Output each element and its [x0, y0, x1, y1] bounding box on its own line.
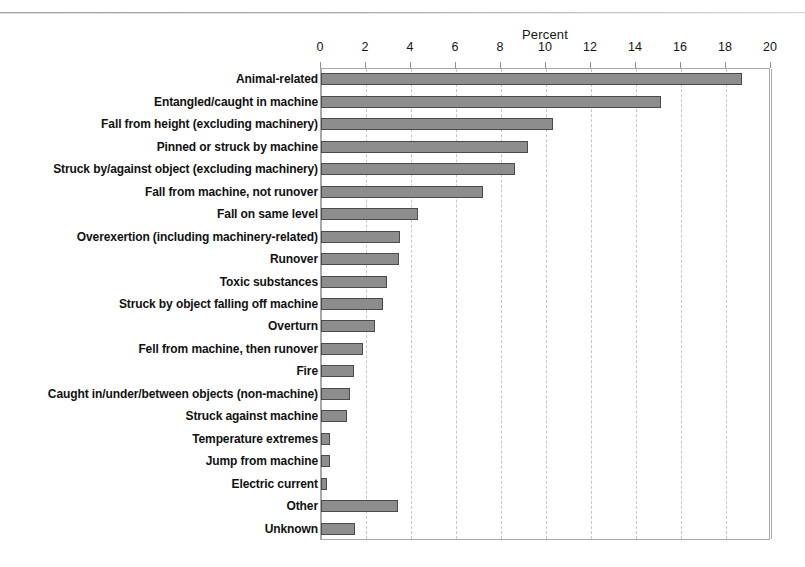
x-tick-label-20: 20 — [750, 40, 790, 54]
x-tick-label-14: 14 — [615, 40, 655, 54]
bar — [321, 186, 483, 198]
x-tick-label-12: 12 — [570, 40, 610, 54]
category-label: Temperature extremes — [192, 432, 318, 446]
category-label: Jump from machine — [206, 454, 318, 468]
bar-row: Fell from machine, then runover — [0, 338, 805, 360]
category-label: Runover — [270, 252, 318, 266]
bar — [321, 141, 528, 153]
bar-row: Unknown — [0, 518, 805, 540]
bar-row: Other — [0, 495, 805, 517]
x-tick-label-10: 10 — [525, 40, 565, 54]
bar-row: Fall from machine, not runover — [0, 180, 805, 202]
bar — [321, 96, 661, 108]
bar — [321, 320, 375, 332]
bar-row: Fire — [0, 360, 805, 382]
bar — [321, 276, 387, 288]
x-tick-label-8: 8 — [480, 40, 520, 54]
bar-row: Overexertion (including machinery-relate… — [0, 225, 805, 247]
category-label: Struck by/against object (excluding mach… — [53, 162, 318, 176]
bar-row: Runover — [0, 248, 805, 270]
category-label: Fall on same level — [217, 207, 318, 221]
bar-row: Entangled/caught in machine — [0, 90, 805, 112]
bar — [321, 433, 330, 445]
bar — [321, 523, 355, 535]
bar-row: Struck against machine — [0, 405, 805, 427]
bar — [321, 298, 383, 310]
category-label: Fall from height (excluding machinery) — [101, 117, 318, 131]
bar-row: Temperature extremes — [0, 428, 805, 450]
bar — [321, 478, 327, 490]
x-tick-label-2: 2 — [345, 40, 385, 54]
category-label: Overexertion (including machinery-relate… — [77, 230, 318, 244]
x-tick-label-18: 18 — [705, 40, 745, 54]
x-tick-label-4: 4 — [390, 40, 430, 54]
bar-row: Caught in/under/between objects (non-mac… — [0, 383, 805, 405]
bar — [321, 388, 350, 400]
category-label: Overturn — [268, 319, 318, 333]
category-label: Animal-related — [236, 72, 318, 86]
bar-row: Overturn — [0, 315, 805, 337]
category-label: Struck against machine — [185, 409, 318, 423]
bar-row: Toxic substances — [0, 270, 805, 292]
category-label: Fall from machine, not runover — [145, 185, 318, 199]
bar — [321, 208, 418, 220]
bar — [321, 500, 398, 512]
bar — [321, 253, 399, 265]
x-tick-label-6: 6 — [435, 40, 475, 54]
bar — [321, 73, 742, 85]
percent-bar-chart: Percent 02468101214161820 Animal-related… — [0, 0, 805, 567]
bar — [321, 343, 363, 355]
category-label: Pinned or struck by machine — [157, 140, 318, 154]
category-label: Fell from machine, then runover — [138, 342, 318, 356]
bar — [321, 365, 354, 377]
category-label: Electric current — [232, 477, 318, 491]
category-label: Unknown — [265, 522, 318, 536]
x-tick-label-0: 0 — [300, 40, 340, 54]
bar — [321, 410, 347, 422]
bar — [321, 455, 330, 467]
category-label: Other — [286, 499, 318, 513]
bar-row: Pinned or struck by machine — [0, 135, 805, 157]
bar-row: Struck by object falling off machine — [0, 293, 805, 315]
bar — [321, 163, 515, 175]
bar-row: Electric current — [0, 473, 805, 495]
bar-row: Jump from machine — [0, 450, 805, 472]
bar — [321, 231, 400, 243]
category-label: Entangled/caught in machine — [154, 95, 318, 109]
bar-row: Animal-related — [0, 68, 805, 90]
bar-row: Fall on same level — [0, 203, 805, 225]
bar-row: Fall from height (excluding machinery) — [0, 113, 805, 135]
category-label: Struck by object falling off machine — [119, 297, 318, 311]
x-tick-label-16: 16 — [660, 40, 700, 54]
bar-row: Struck by/against object (excluding mach… — [0, 158, 805, 180]
category-label: Caught in/under/between objects (non-mac… — [48, 387, 318, 401]
category-label: Fire — [296, 364, 318, 378]
bar — [321, 118, 553, 130]
category-label: Toxic substances — [220, 275, 318, 289]
